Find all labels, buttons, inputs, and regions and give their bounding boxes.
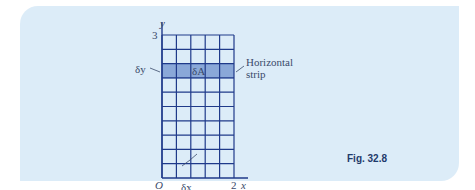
y-max-label: 3 — [152, 29, 158, 41]
delta-a-label: δA — [192, 65, 205, 77]
origin-label: O — [155, 179, 163, 190]
delta-x-label: δx — [181, 181, 192, 190]
grid-diagram: y 3 δy δA Horizontal strip O δx 2 x — [0, 0, 475, 190]
y-axis-label: y — [159, 17, 165, 29]
delta-y-label: δy — [135, 63, 146, 75]
x-max-label: 2 — [231, 179, 237, 190]
delta-y-leader — [150, 68, 160, 72]
strip-label-line1: Horizontal — [246, 56, 293, 68]
delta-x-leader-2 — [182, 160, 190, 166]
strip-label-line2: strip — [246, 68, 266, 80]
x-axis-label: x — [240, 179, 246, 190]
grid-lines — [162, 35, 234, 178]
figure-caption: Fig. 32.8 — [347, 153, 387, 164]
strip-leader — [236, 66, 244, 72]
